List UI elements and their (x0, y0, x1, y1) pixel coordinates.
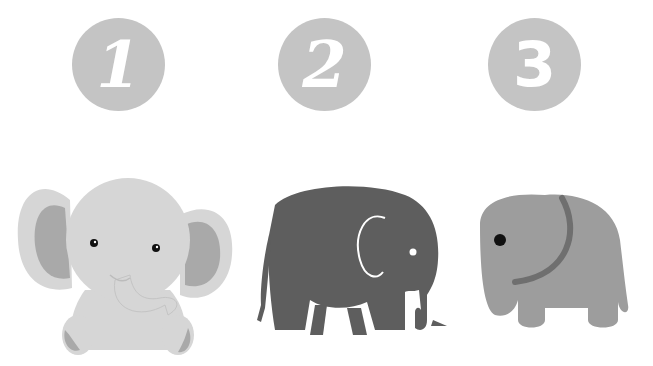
silhouette-elephant-illustration (255, 180, 450, 335)
badge-number: 2 (302, 33, 347, 97)
number-badge-1: 1 (72, 18, 165, 111)
number-badge-3: 3 (488, 18, 581, 111)
badge-number: 3 (513, 34, 556, 96)
badge-number: 1 (96, 33, 141, 97)
cartoon-elephant-illustration (470, 190, 640, 335)
number-badge-2: 2 (278, 18, 371, 111)
baby-elephant-illustration (10, 170, 240, 355)
